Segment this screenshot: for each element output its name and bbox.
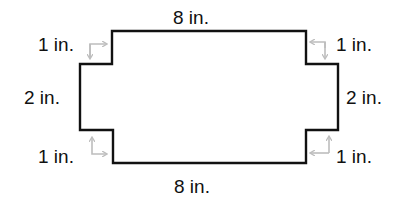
top-left-notch-arrow-icon: [90, 44, 106, 58]
bottom-left-notch-arrow-icon: [92, 138, 106, 154]
label-top: 8 in.: [173, 7, 209, 28]
label-left: 2 in.: [24, 87, 60, 108]
label-top-left-notch: 1 in.: [38, 34, 74, 55]
label-right: 2 in.: [346, 87, 382, 108]
label-top-right-notch: 1 in.: [336, 34, 372, 55]
shape-outline: [80, 31, 338, 163]
top-right-notch-arrow-icon: [311, 42, 325, 58]
label-bottom-right-notch: 1 in.: [336, 146, 372, 167]
bottom-right-notch-arrow-icon: [311, 137, 329, 153]
label-bottom: 8 in.: [174, 176, 210, 197]
dimension-diagram: 8 in. 8 in. 2 in. 2 in. 1 in. 1 in. 1 in…: [0, 0, 416, 199]
label-bottom-left-notch: 1 in.: [38, 146, 74, 167]
